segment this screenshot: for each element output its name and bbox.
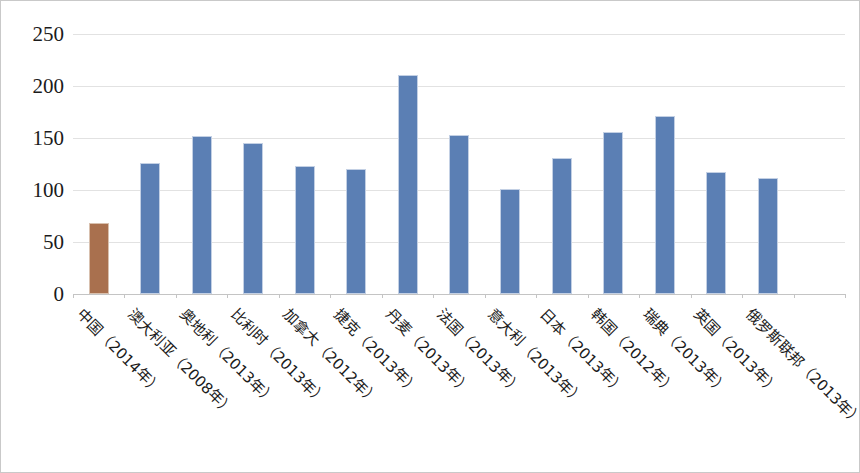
x-axis-tickmark	[845, 294, 846, 298]
bar	[552, 158, 572, 294]
x-axis-tickmark	[176, 294, 177, 298]
plot-area: 250200150100500	[73, 21, 845, 306]
bar-slot	[124, 21, 175, 294]
bar-slot	[536, 21, 587, 294]
y-axis-tick-label: 50	[43, 232, 64, 253]
x-axis-tickmark	[639, 294, 640, 298]
bar-slot	[73, 21, 124, 294]
y-axis-tick-label: 200	[33, 76, 65, 97]
x-axis-tickmark	[485, 294, 486, 298]
bar	[449, 135, 469, 294]
bar	[140, 163, 160, 294]
y-axis-tick-label: 0	[54, 284, 65, 305]
bar	[500, 189, 520, 294]
x-axis-tickmark	[73, 294, 74, 298]
bar-slot	[330, 21, 381, 294]
bar	[655, 116, 675, 294]
bar	[295, 166, 315, 294]
bar-slot	[176, 21, 227, 294]
bar-slot	[485, 21, 536, 294]
x-axis-tickmark	[742, 294, 743, 298]
bar	[603, 132, 623, 294]
x-axis-category-label: 意大利（2013年）	[485, 306, 587, 408]
x-axis-tickmark	[382, 294, 383, 298]
x-axis-tickmark	[588, 294, 589, 298]
bar-slot	[279, 21, 330, 294]
x-axis-tickmark	[330, 294, 331, 298]
bar-slot	[691, 21, 742, 294]
x-axis-tickmark	[279, 294, 280, 298]
x-axis-category-labels: 中国（2014年）澳大利亚（2008年）奥地利（2013年）比利时（2013年）…	[73, 306, 845, 471]
bar-slot	[382, 21, 433, 294]
bar-slot	[433, 21, 484, 294]
bar-slot	[227, 21, 278, 294]
x-axis-tickmark	[124, 294, 125, 298]
bar	[192, 136, 212, 294]
bar-slot	[588, 21, 639, 294]
y-axis-tick-label: 100	[33, 180, 65, 201]
bar-slot	[742, 21, 793, 294]
x-axis-tickmark	[794, 294, 795, 298]
chart-frame: 250200150100500 中国（2014年）澳大利亚（2008年）奥地利（…	[0, 0, 860, 473]
x-axis-category-label: 奥地利（2013年）	[176, 306, 278, 408]
bar-slot	[639, 21, 690, 294]
x-axis-tickmark	[433, 294, 434, 298]
y-axis-tick-label: 250	[33, 24, 65, 45]
x-axis-category-label: 比利时（2013年）	[227, 306, 329, 408]
bar	[346, 169, 366, 294]
x-axis-tickmark	[536, 294, 537, 298]
x-axis-tickmark	[691, 294, 692, 298]
bar	[89, 223, 109, 294]
axis-baseline	[73, 294, 845, 295]
bar	[398, 75, 418, 294]
bar	[758, 178, 778, 294]
bar-series	[73, 21, 845, 294]
x-axis-tickmark	[227, 294, 228, 298]
y-axis-tick-label: 150	[33, 128, 65, 149]
bar	[243, 143, 263, 294]
bar	[706, 172, 726, 294]
x-axis-category-label: 加拿大（2012年）	[279, 306, 381, 408]
